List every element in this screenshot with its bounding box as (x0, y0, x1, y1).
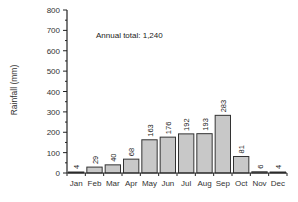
bar-feb (87, 167, 102, 173)
x-tick-label: Nov (252, 179, 266, 188)
bar-jun (160, 137, 175, 173)
bar-value-label: 81 (237, 145, 246, 153)
x-tick-label: May (142, 179, 157, 188)
bar-apr (124, 159, 139, 173)
y-tick-label: 200 (47, 128, 61, 137)
y-axis: 0100200300400500600700800 (47, 6, 67, 178)
bar-sep (215, 115, 230, 173)
rainfall-bar-chart: 0100200300400500600700800 42940681631761… (0, 0, 298, 202)
x-tick-label: Dec (271, 179, 285, 188)
y-tick-label: 600 (47, 47, 61, 56)
bar-value-label: 40 (109, 154, 118, 162)
y-tick-label: 700 (47, 26, 61, 35)
x-tick-label: Oct (235, 179, 248, 188)
bar-value-label: 68 (127, 148, 136, 156)
y-tick-label: 800 (47, 6, 61, 15)
bars: 42940681631761921932838164 (69, 100, 286, 173)
x-tick-label: Aug (197, 179, 211, 188)
bar-value-label: 192 (182, 118, 191, 131)
x-tick-label: Apr (125, 179, 138, 188)
x-tick-label: Feb (88, 179, 102, 188)
bar-value-label: 6 (256, 165, 265, 169)
annual-total-annotation: Annual total: 1,240 (96, 31, 163, 40)
x-tick-label: Jun (161, 179, 174, 188)
bar-may (142, 140, 157, 173)
y-tick-label: 0 (56, 169, 61, 178)
y-tick-label: 400 (47, 88, 61, 97)
y-tick-label: 300 (47, 108, 61, 117)
bar-value-label: 193 (201, 118, 210, 131)
y-axis-label: Rainfall (mm) (9, 65, 19, 116)
y-tick-label: 500 (47, 67, 61, 76)
x-tick-label: Mar (106, 179, 120, 188)
bar-mar (105, 165, 120, 173)
bar-oct (234, 156, 249, 173)
bar-aug (197, 134, 212, 173)
bar-value-label: 176 (164, 122, 173, 135)
bar-value-label: 163 (146, 124, 155, 137)
x-tick-label: Sep (216, 179, 231, 188)
x-axis: JanFebMarAprMayJunJulAugSepOctNovDec (67, 173, 287, 188)
bar-value-label: 283 (219, 100, 228, 113)
bar-value-label: 29 (91, 156, 100, 164)
y-tick-label: 100 (47, 149, 61, 158)
x-tick-label: Jan (70, 179, 83, 188)
x-tick-label: Jul (181, 179, 191, 188)
bar-value-label: 4 (72, 165, 81, 169)
bar-jul (179, 134, 194, 173)
bar-value-label: 4 (274, 165, 283, 169)
